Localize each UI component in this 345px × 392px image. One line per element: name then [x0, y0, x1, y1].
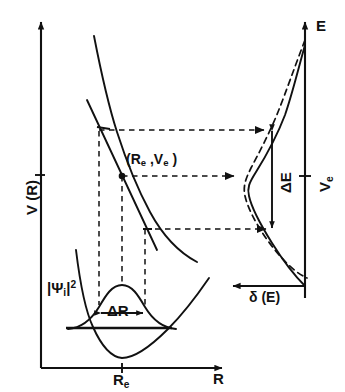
sigma-axis-label: δ (E)	[249, 290, 280, 304]
e-axis-label: E	[316, 18, 326, 33]
point-label-mid: ,V	[146, 151, 163, 167]
re-tick-label: Re	[113, 372, 130, 390]
e-axis-label-text: E	[316, 17, 326, 34]
wavefunction-label: |Ψi|2	[47, 280, 76, 298]
delta-r-label-text: ΔR	[107, 302, 129, 319]
cross-section-curve-solid	[248, 45, 305, 286]
ve-tick-label-sub: e	[324, 176, 335, 182]
delta-r-label: ΔR	[107, 303, 129, 318]
v-axis-label-text: V (R)	[23, 180, 40, 215]
left-panel-axes	[35, 22, 222, 373]
reflection-principle-diagram	[0, 0, 345, 392]
r-axis-label: R	[213, 371, 224, 386]
delta-e-label-text: ΔE	[277, 172, 294, 193]
ve-tick-label-main: V	[316, 182, 333, 192]
sigma-axis-label-rest: (E)	[258, 289, 281, 305]
figure-canvas: V (R) R Re (Re ,Ve ) |Ψi|2 ΔR E Ve ΔE δ …	[0, 0, 345, 392]
re-tick-label-sub: e	[124, 379, 130, 390]
psi-glyph: Ψ	[51, 279, 63, 296]
re-tick-label-main: R	[113, 371, 124, 388]
v-axis-label: V (R)	[24, 180, 39, 215]
top-intersection-tick	[97, 127, 110, 129]
wavefunction-sup-2: 2	[70, 279, 76, 290]
point-label-close: )	[169, 151, 178, 167]
sigma-glyph: δ	[249, 289, 258, 305]
r-axis-label-text: R	[213, 370, 224, 387]
re-ve-point-marker	[119, 173, 126, 180]
ve-tick-label: Ve	[317, 176, 335, 192]
point-label-open: (R	[126, 151, 141, 167]
re-ve-point-label: (Re ,Ve )	[126, 152, 177, 168]
delta-e-label: ΔE	[278, 172, 293, 193]
